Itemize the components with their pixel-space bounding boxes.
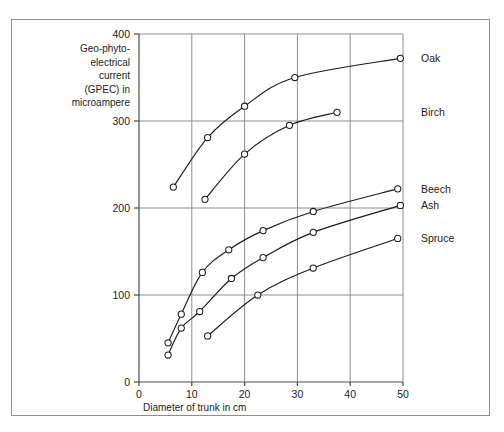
data-point-marker (292, 74, 298, 80)
series-labels: OakBirchBeechAshSpruce (421, 52, 454, 244)
data-point-marker (165, 352, 171, 358)
series-beech (165, 186, 401, 346)
data-point-marker (397, 55, 403, 61)
data-point-marker (178, 311, 184, 317)
y-axis-title-line: Geo-phyto- (80, 43, 130, 54)
data-point-marker (165, 340, 171, 346)
y-axis-title-line: microampere (72, 97, 131, 108)
x-axis-title: Diameter of trunk in cm (143, 402, 246, 413)
y-tick-label: 400 (112, 28, 130, 40)
series-line (208, 238, 398, 335)
y-tick-label: 300 (112, 115, 130, 127)
data-point-marker (205, 134, 211, 140)
chart-page: 010020030040001020304050 OakBirchBeechAs… (0, 0, 504, 432)
series-line (205, 112, 337, 199)
x-tick-label: 20 (239, 388, 251, 400)
series-label-birch: Birch (421, 106, 445, 118)
data-point-marker (310, 265, 316, 271)
y-tick-label: 200 (112, 202, 130, 214)
x-tick-label: 10 (186, 388, 198, 400)
x-tick-label: 30 (292, 388, 304, 400)
series-label-oak: Oak (421, 52, 441, 64)
data-point-marker (226, 247, 232, 253)
data-point-marker (199, 269, 205, 275)
tick-labels: 010020030040001020304050 (112, 28, 409, 400)
data-point-marker (242, 103, 248, 109)
y-tick-label: 0 (124, 376, 130, 388)
data-point-marker (228, 275, 234, 281)
data-point-marker (395, 235, 401, 241)
data-point-marker (260, 254, 266, 260)
series-label-spruce: Spruce (421, 232, 454, 244)
data-point-marker (395, 186, 401, 192)
series-line (173, 58, 400, 187)
series-layer (165, 55, 404, 358)
series-line (168, 189, 398, 343)
data-point-marker (310, 229, 316, 235)
series-oak (170, 55, 403, 190)
data-point-marker (397, 202, 403, 208)
data-point-marker (205, 333, 211, 339)
data-point-marker (255, 292, 261, 298)
x-tick-label: 40 (344, 388, 356, 400)
series-label-ash: Ash (421, 199, 439, 211)
data-point-marker (260, 228, 266, 234)
x-tick-label: 50 (397, 388, 409, 400)
axis-ticks (134, 34, 403, 386)
axis-titles: Diameter of trunk in cmGeo-phyto-electri… (72, 43, 247, 413)
y-axis-title-line: electrical (91, 57, 130, 68)
data-point-marker (310, 208, 316, 214)
data-point-marker (178, 325, 184, 331)
gpec-line-chart: 010020030040001020304050 OakBirchBeechAs… (12, 20, 491, 417)
series-label-beech: Beech (421, 183, 451, 195)
data-point-marker (202, 196, 208, 202)
figure-frame: 010020030040001020304050 OakBirchBeechAs… (11, 19, 490, 416)
x-tick-label: 0 (136, 388, 142, 400)
series-spruce (205, 235, 401, 339)
data-point-marker (242, 151, 248, 157)
data-point-marker (334, 109, 340, 115)
data-point-marker (286, 122, 292, 128)
data-point-marker (170, 184, 176, 190)
y-tick-label: 100 (112, 289, 130, 301)
y-axis-title-line: (GPEC) in (84, 84, 130, 95)
y-axis-title-line: current (99, 70, 130, 81)
data-point-marker (197, 308, 203, 314)
